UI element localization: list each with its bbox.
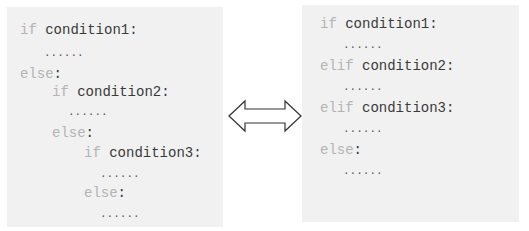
placeholder-dots: ...... — [343, 120, 383, 137]
keyword-text: if — [52, 84, 69, 100]
code-line: if condition2: — [52, 84, 170, 100]
condition-text: condition3: — [354, 100, 455, 116]
code-line: if condition1: — [320, 16, 438, 32]
ellipsis-text: ...... — [343, 39, 383, 51]
ellipsis-text: ...... — [343, 123, 383, 135]
keyword-text: else — [20, 66, 54, 82]
condition-text: : — [118, 185, 126, 201]
condition-text: condition3: — [101, 145, 202, 161]
code-line: elif condition3: — [320, 100, 454, 116]
placeholder-dots: ...... — [100, 205, 140, 222]
condition-text: condition2: — [69, 84, 170, 100]
condition-text: condition2: — [354, 58, 455, 74]
placeholder-dots: ...... — [343, 36, 383, 53]
ellipsis-text: ...... — [68, 106, 108, 118]
keyword-text: else — [52, 125, 86, 141]
ellipsis-text: ...... — [100, 208, 140, 220]
keyword-text: else — [84, 185, 118, 201]
keyword-text: if — [20, 22, 37, 38]
double-arrow-icon — [228, 99, 302, 133]
ellipsis-text: ...... — [343, 81, 383, 93]
placeholder-dots: ...... — [343, 162, 383, 179]
keyword-text: else — [320, 142, 354, 158]
code-line: if condition3: — [84, 145, 202, 161]
keyword-text: elif — [320, 100, 354, 116]
placeholder-dots: ...... — [68, 103, 108, 120]
code-line: elif condition2: — [320, 58, 454, 74]
ellipsis-text: ...... — [44, 47, 84, 59]
placeholder-dots: ...... — [343, 78, 383, 95]
ellipsis-text: ...... — [343, 165, 383, 177]
condition-text: condition1: — [37, 22, 138, 38]
keyword-text: if — [320, 16, 337, 32]
code-line: else: — [84, 185, 126, 201]
keyword-text: elif — [320, 58, 354, 74]
condition-text: : — [54, 66, 62, 82]
code-line: else: — [52, 125, 94, 141]
code-line: if condition1: — [20, 22, 138, 38]
ellipsis-text: ...... — [100, 168, 140, 180]
placeholder-dots: ...... — [100, 165, 140, 182]
keyword-text: if — [84, 145, 101, 161]
condition-text: : — [354, 142, 362, 158]
placeholder-dots: ...... — [44, 44, 84, 61]
condition-text: condition1: — [337, 16, 438, 32]
condition-text: : — [86, 125, 94, 141]
code-line: else: — [320, 142, 362, 158]
code-line: else: — [20, 66, 62, 82]
